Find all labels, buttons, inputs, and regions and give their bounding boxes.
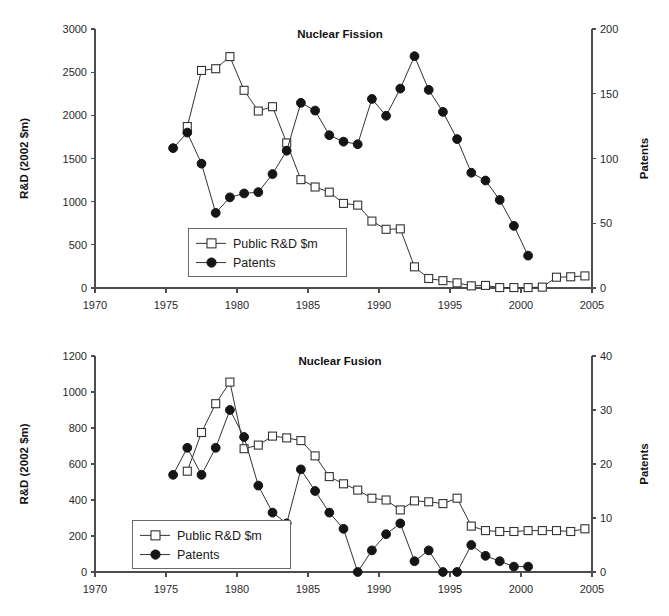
- data-point-public-rd: [212, 65, 220, 73]
- chart-panel-nuclear-fusion: 0200400600800100012000102030401970197519…: [0, 320, 669, 616]
- x-axis-tick-label: 1990: [367, 299, 391, 311]
- data-point-patents: [453, 568, 462, 577]
- x-axis-tick-label: 2005: [580, 299, 604, 311]
- data-point-public-rd: [183, 467, 191, 475]
- data-point-public-rd: [354, 201, 362, 209]
- data-point-public-rd: [254, 107, 262, 115]
- y-axis-left-tick-label: 3000: [63, 23, 87, 35]
- data-point-public-rd: [340, 480, 348, 488]
- data-point-patents: [453, 135, 462, 144]
- y-axis-right-title: Patents: [638, 443, 650, 485]
- y-axis-right-tick-label: 200: [600, 23, 618, 35]
- data-point-public-rd: [354, 486, 362, 494]
- data-point-patents: [481, 176, 490, 185]
- series-public-rd: [183, 378, 589, 535]
- data-point-public-rd: [311, 183, 319, 191]
- y-axis-left-tick-label: 1000: [63, 196, 87, 208]
- data-point-patents: [169, 470, 178, 479]
- y-axis-left-tick-label: 2000: [63, 109, 87, 121]
- y-axis-left-tick-label: 800: [69, 422, 87, 434]
- y-axis-right-tick-label: 50: [600, 217, 612, 229]
- data-point-public-rd: [453, 494, 461, 502]
- data-point-patents: [524, 251, 533, 260]
- data-point-public-rd: [482, 281, 490, 289]
- y-axis-left-tick-label: 600: [69, 458, 87, 470]
- data-point-patents: [439, 107, 448, 116]
- y-axis-left-tick-label: 2500: [63, 66, 87, 78]
- data-point-patents: [268, 508, 277, 517]
- legend-label-public-rd: Public R&D $m: [233, 237, 318, 251]
- data-point-public-rd: [482, 527, 490, 535]
- data-point-patents: [467, 168, 476, 177]
- x-axis-tick-label: 1995: [438, 583, 462, 595]
- y-axis-right-tick-label: 150: [600, 88, 618, 100]
- data-point-public-rd: [411, 263, 419, 271]
- y-axis-right-tick-label: 0: [600, 282, 606, 294]
- legend: Public R&D $mPatents: [132, 520, 290, 568]
- data-point-public-rd: [283, 434, 291, 442]
- legend-label-patents: Patents: [233, 256, 275, 270]
- data-point-patents: [382, 111, 391, 120]
- data-point-patents: [382, 530, 391, 539]
- data-point-public-rd: [453, 279, 461, 287]
- data-point-patents: [439, 568, 448, 577]
- chart-title: Nuclear Fusion: [298, 355, 381, 367]
- data-point-public-rd: [425, 498, 433, 506]
- y-axis-right-tick-label: 30: [600, 404, 612, 416]
- data-point-patents: [368, 546, 377, 555]
- data-point-patents: [396, 84, 405, 93]
- x-axis-tick-label: 1995: [438, 299, 462, 311]
- y-axis-right-tick-label: 40: [600, 350, 612, 362]
- data-point-public-rd: [411, 497, 419, 505]
- data-point-public-rd: [297, 176, 305, 184]
- chart-page: 0500100015002000250030000501001502001970…: [0, 0, 669, 616]
- y-axis-right-tick-label: 10: [600, 512, 612, 524]
- data-point-patents: [197, 470, 206, 479]
- chart-panel-nuclear-fission: 0500100015002000250030000501001502001970…: [0, 0, 669, 320]
- x-axis-tick-label: 1970: [83, 299, 107, 311]
- data-point-patents: [297, 465, 306, 474]
- data-point-public-rd: [226, 378, 234, 386]
- data-point-patents: [197, 159, 206, 168]
- data-point-patents: [510, 221, 519, 230]
- data-point-patents: [353, 140, 362, 149]
- x-axis-tick-label: 1980: [225, 583, 249, 595]
- data-point-public-rd: [567, 273, 575, 281]
- legend-marker-patents: [151, 550, 160, 559]
- data-point-public-rd: [269, 103, 277, 111]
- y-axis-right-title: Patents: [638, 138, 650, 180]
- legend-label-public-rd: Public R&D $m: [177, 529, 262, 543]
- data-point-public-rd: [368, 217, 376, 225]
- data-point-patents: [211, 443, 220, 452]
- data-point-patents: [226, 193, 235, 202]
- data-point-public-rd: [396, 225, 404, 233]
- x-axis-tick-label: 1975: [154, 299, 178, 311]
- y-axis-left-title: R&D (2002 $m): [18, 423, 30, 504]
- x-axis-tick-label: 1985: [296, 299, 320, 311]
- data-point-patents: [353, 568, 362, 577]
- data-point-patents: [424, 85, 433, 94]
- data-point-public-rd: [425, 275, 433, 283]
- data-point-public-rd: [240, 86, 248, 94]
- data-point-public-rd: [198, 66, 206, 74]
- data-point-public-rd: [340, 199, 348, 207]
- data-point-public-rd: [496, 284, 504, 292]
- y-axis-left-tick-label: 0: [81, 282, 87, 294]
- data-point-patents: [410, 557, 419, 566]
- x-axis-tick-label: 1970: [83, 583, 107, 595]
- x-axis-tick-label: 1985: [296, 583, 320, 595]
- data-point-patents: [510, 562, 519, 571]
- data-point-public-rd: [382, 496, 390, 504]
- y-axis-left-tick-label: 200: [69, 530, 87, 542]
- data-point-patents: [481, 551, 490, 560]
- data-point-public-rd: [439, 500, 447, 508]
- data-point-patents: [282, 146, 291, 155]
- y-axis-left-tick-label: 500: [69, 239, 87, 251]
- data-point-patents: [424, 546, 433, 555]
- y-axis-right-tick-label: 20: [600, 458, 612, 470]
- data-point-public-rd: [382, 225, 390, 233]
- data-point-patents: [368, 95, 377, 104]
- nuclear-fusion-chart: 0200400600800100012000102030401970197519…: [0, 320, 669, 616]
- x-axis-tick-label: 2000: [509, 299, 533, 311]
- data-point-public-rd: [325, 473, 333, 481]
